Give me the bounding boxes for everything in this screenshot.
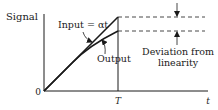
output-leader-line [102, 40, 105, 54]
signal-linearity-diagram: Signal 0 T t Input = αt Output Deviation… [0, 0, 218, 110]
time-marker-label: T [115, 96, 122, 106]
input-leader-line [83, 32, 92, 42]
output-label: Output [97, 53, 131, 64]
deviation-label-line2: linearity [158, 57, 199, 68]
y-axis-label: Signal [6, 11, 38, 22]
x-axis-label: t [206, 96, 210, 106]
input-label: Input = αt [58, 19, 108, 30]
deviation-label-line1: Deviation from [142, 46, 214, 57]
origin-label: 0 [35, 87, 41, 97]
